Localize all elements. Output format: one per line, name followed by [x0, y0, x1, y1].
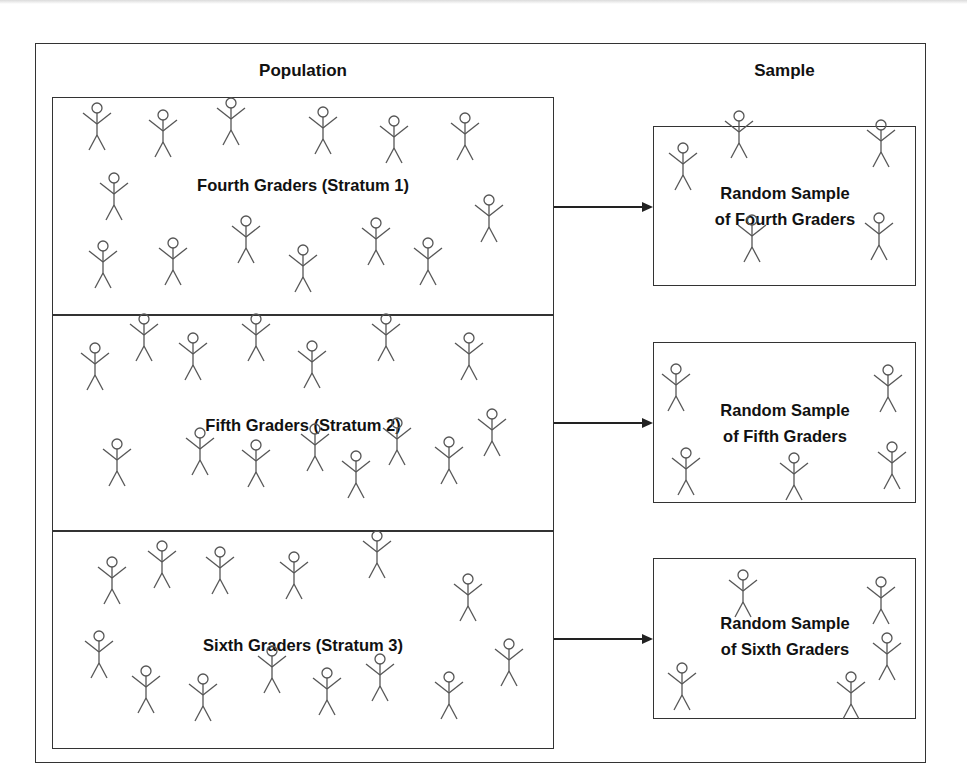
stratum-label-3: Sixth Graders (Stratum 3) — [52, 632, 554, 658]
sample-header: Sample — [653, 61, 916, 81]
sample-label-3-line1: Random Sample — [690, 610, 880, 636]
right-arrow-icon — [554, 638, 651, 640]
sample-label-1: Random Sample of Fourth Graders — [690, 180, 880, 232]
stratum-label-2: Fifth Graders (Stratum 2) — [52, 412, 554, 438]
sample-label-2: Random Sample of Fifth Graders — [690, 397, 880, 449]
population-header: Population — [52, 61, 554, 81]
right-arrow-icon — [554, 206, 651, 208]
sample-label-2-line1: Random Sample — [690, 397, 880, 423]
stratum-label-1: Fourth Graders (Stratum 1) — [52, 172, 554, 198]
sample-label-3-line2: of Sixth Graders — [690, 636, 880, 662]
sample-label-3: Random Sample of Sixth Graders — [690, 610, 880, 662]
sample-label-1-line1: Random Sample — [690, 180, 880, 206]
sample-label-2-line2: of Fifth Graders — [690, 423, 880, 449]
sample-label-1-line2: of Fourth Graders — [690, 206, 880, 232]
stratum-box-fourth-graders — [52, 97, 554, 316]
cropped-text-line — [0, 0, 967, 4]
right-arrow-icon — [554, 422, 651, 424]
